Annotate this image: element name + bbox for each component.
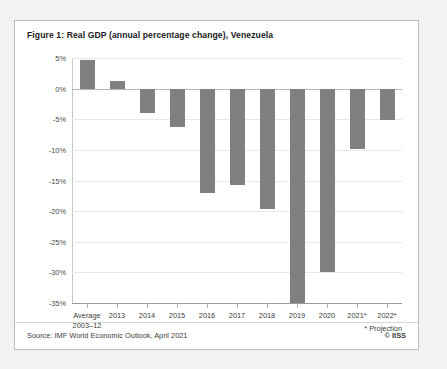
bar [110, 81, 125, 89]
x-axis-tick-label: 2014 [139, 311, 155, 321]
figure-panel: Figure 1: Real GDP (annual percentage ch… [14, 20, 419, 350]
y-axis-tick-label: -10% [49, 145, 66, 154]
y-axis-tick-label: 5% [55, 54, 66, 63]
copyright-label: © IISS [385, 331, 406, 340]
x-axis-tick-mark [207, 303, 208, 308]
chart-plot-area: 5%0%-5%-10%-15%-20%-25%-30%-35% Average … [72, 58, 402, 303]
y-axis-tick-label: -30% [49, 268, 66, 277]
bar [320, 89, 335, 273]
y-axis-tick-label: 0% [55, 84, 66, 93]
x-axis-tick-mark [357, 303, 358, 308]
bar [350, 89, 365, 149]
bar-series [72, 58, 402, 303]
bar [230, 89, 245, 186]
figure-title: Figure 1: Real GDP (annual percentage ch… [27, 30, 273, 40]
x-axis-tick-label: Average 2003–12 [73, 311, 102, 330]
bar [170, 89, 185, 127]
x-axis-tick-mark [327, 303, 328, 308]
x-axis-tick-mark [237, 303, 238, 308]
x-axis-tick-label: 2013 [109, 311, 125, 321]
footer-divider [15, 322, 418, 323]
y-axis-tick-label: -20% [49, 207, 66, 216]
y-axis-tick-label: -5% [53, 115, 66, 124]
x-axis-tick-label: 2020 [319, 311, 335, 321]
y-axis-tick-label: -25% [49, 237, 66, 246]
x-axis-tick-mark [147, 303, 148, 308]
bar [140, 89, 155, 113]
bar [80, 60, 95, 88]
bar [380, 89, 395, 121]
x-axis-tick-label: 2019 [289, 311, 305, 321]
x-axis-tick-label: 2016 [199, 311, 215, 321]
bar [200, 89, 215, 193]
x-axis-tick-mark [267, 303, 268, 308]
source-text: Source: IMF World Economic Outlook, Apri… [27, 331, 187, 340]
x-axis-tick-mark [87, 303, 88, 308]
x-axis-tick-label: 2017 [229, 311, 245, 321]
x-axis-tick-label: 2015 [169, 311, 185, 321]
x-axis-tick-label: 2022* [377, 311, 396, 321]
x-axis-tick-mark [117, 303, 118, 308]
y-axis-tick-label: -35% [49, 299, 66, 308]
x-axis-tick-mark [177, 303, 178, 308]
x-axis-tick-label: 2018 [259, 311, 275, 321]
x-axis-tick-label: 2021* [347, 311, 366, 321]
y-axis-tick-label: -15% [49, 176, 66, 185]
bar [260, 89, 275, 209]
x-axis-tick-mark [387, 303, 388, 308]
x-axis-tick-mark [297, 303, 298, 308]
bar [290, 89, 305, 303]
